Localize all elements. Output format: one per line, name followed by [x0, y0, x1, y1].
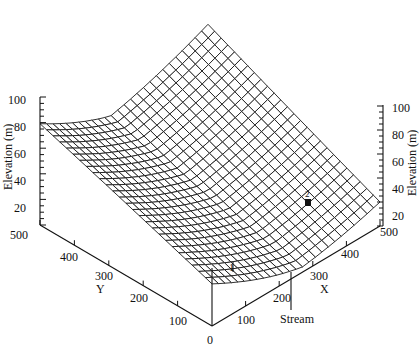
x-tick-200: 200	[273, 291, 291, 305]
surface-plot-svg: 100 80 60 40 20 Elevation (m) 100 80 60 …	[0, 0, 420, 349]
z-left-tick-60: 60	[14, 147, 26, 161]
x-tick-500: 500	[380, 225, 398, 239]
y-axis-label: Y	[96, 282, 105, 296]
surface-plot-figure: 100 80 60 40 20 Elevation (m) 100 80 60 …	[0, 0, 420, 349]
z-right-tick-40: 40	[392, 182, 404, 196]
x-tick-100: 100	[237, 313, 255, 327]
marker-1-label: 1	[229, 261, 235, 273]
stream-label: Stream	[280, 312, 315, 326]
y-tick-400: 400	[60, 250, 78, 264]
z-left-tick-80: 80	[14, 120, 26, 134]
y-tick-200: 200	[130, 291, 148, 305]
z-right-tick-100: 100	[392, 101, 410, 115]
z-left-tick-40: 40	[14, 174, 26, 188]
marker-2-label: 2	[305, 189, 310, 199]
y-tick-500: 500	[10, 228, 28, 242]
z-right-tick-20: 20	[392, 209, 404, 223]
z-axis-label-right: Elevation (m)	[405, 130, 419, 196]
z-left-tick-100: 100	[8, 93, 26, 107]
x-tick-300: 300	[310, 269, 328, 283]
z-left-tick-20: 20	[14, 201, 26, 215]
z-axis-label-left: Elevation (m)	[1, 124, 15, 190]
z-right-tick-80: 80	[392, 128, 404, 142]
y-tick-100: 100	[169, 314, 187, 328]
origin-label: 0	[207, 333, 213, 347]
wireframe-surface	[40, 24, 380, 284]
z-right-tick-60: 60	[392, 155, 404, 169]
x-tick-400: 400	[341, 247, 359, 261]
marker-2-square	[305, 199, 311, 206]
x-axis-label: X	[320, 282, 329, 296]
y-tick-300: 300	[95, 269, 113, 283]
